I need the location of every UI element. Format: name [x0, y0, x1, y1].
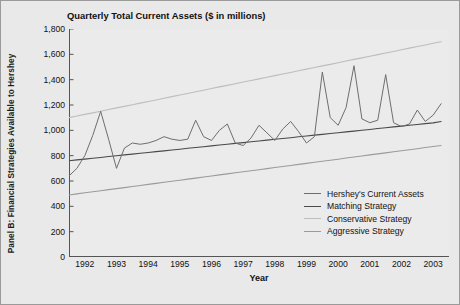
legend-item: Aggressive Strategy: [304, 226, 424, 237]
legend-label: Aggressive Strategy: [327, 226, 404, 236]
x-axis-tick-label: 1995: [170, 259, 189, 269]
x-axis-title: Year: [69, 273, 449, 283]
y-axis-tick-label: 1,200: [43, 100, 65, 110]
panel-label-text: Panel B: Financial Strategies Available …: [8, 54, 17, 254]
legend-item: Hershey's Current Assets: [304, 188, 424, 199]
legend-color-swatch: [304, 206, 321, 207]
x-axis-tick-label: 1996: [202, 259, 221, 269]
x-axis-tick-label: 1992: [75, 259, 94, 269]
x-axis-tick-label: 2000: [329, 259, 348, 269]
legend-color-swatch: [304, 231, 321, 232]
x-axis-tick-label: 1993: [107, 259, 126, 269]
legend-label: Matching Strategy: [327, 201, 396, 211]
chart-figure: Panel B: Financial Strategies Available …: [0, 0, 460, 305]
chart-legend: Hershey's Current AssetsMatching Strateg…: [304, 188, 424, 237]
y-axis-tick-label: 1,400: [43, 75, 65, 85]
y-axis-tick-label: 600: [51, 176, 65, 186]
legend-label: Hershey's Current Assets: [327, 189, 424, 199]
x-axis-tick-label: 2003: [424, 259, 443, 269]
y-axis-tick-label: 800: [51, 151, 65, 161]
chart-title: Quarterly Total Current Assets ($ in mil…: [67, 10, 265, 21]
y-axis-tick-label: 200: [51, 227, 65, 237]
legend-label: Conservative Strategy: [327, 214, 412, 224]
x-axis-tick-label: 2001: [360, 259, 379, 269]
series-line-matching-strategy: [69, 121, 441, 160]
x-axis-tick-label: 2002: [392, 259, 411, 269]
y-axis-tick-label: 400: [51, 201, 65, 211]
y-axis-tick-label: 1,600: [43, 49, 65, 59]
y-axis-tick-label: 1,000: [43, 125, 65, 135]
y-axis-tick-label: 1,800: [43, 24, 65, 34]
legend-color-swatch: [304, 193, 321, 194]
series-line-hershey-s-current-assets: [69, 66, 441, 176]
x-axis-tick-label: 1994: [139, 259, 158, 269]
y-axis-tick-label: 0: [60, 252, 65, 262]
x-axis-tick-labels: 1992199319941995199619971998199920002001…: [69, 259, 449, 273]
legend-item: Conservative Strategy: [304, 213, 424, 224]
x-axis-tick-label: 1998: [265, 259, 284, 269]
legend-item: Matching Strategy: [304, 201, 424, 212]
x-axis-tick-label: 1999: [297, 259, 316, 269]
panel-label: Panel B: Financial Strategies Available …: [1, 1, 23, 305]
legend-color-swatch: [304, 218, 321, 219]
x-axis-tick-label: 1997: [234, 259, 253, 269]
y-axis-tick-labels: 02004006008001,0001,2001,4001,6001,800: [23, 29, 65, 257]
